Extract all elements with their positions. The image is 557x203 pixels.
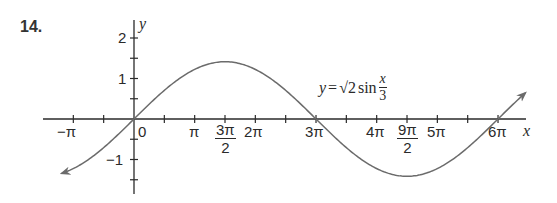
y-tick-label-1: 1 xyxy=(118,71,126,86)
x-tick-label-9pi-2: 9π2 xyxy=(397,122,418,155)
x-tick-label-neg-pi: −π xyxy=(57,124,76,139)
frac-numerator: 9π xyxy=(397,122,418,139)
equation-lhs: y xyxy=(319,79,326,97)
y-tick-label-neg1: −1 xyxy=(106,152,123,167)
x-axis-label: x xyxy=(523,123,530,139)
y-tick-label-2: 2 xyxy=(118,30,126,45)
frac-numerator: 3π xyxy=(215,122,236,139)
x-tick-label-0: 0 xyxy=(138,124,146,139)
equation-annotation: y = √2 sin x3 xyxy=(319,72,387,103)
x-tick-label-5pi: 5π xyxy=(427,124,446,139)
equation-coefficient: √2 xyxy=(339,79,356,97)
equation-equals: = xyxy=(328,79,337,97)
x-tick-label-6pi: 6π xyxy=(488,124,507,139)
x-tick-label-3pi-2: 3π2 xyxy=(215,122,236,155)
frac-denominator: 2 xyxy=(403,139,411,155)
x-tick-label-3pi: 3π xyxy=(305,124,324,139)
x-tick-label-4pi: 4π xyxy=(366,124,385,139)
frac-denominator: 2 xyxy=(221,139,229,155)
equation-frac-num: x xyxy=(379,72,387,88)
plot-canvas xyxy=(0,0,557,203)
y-axis-label: y xyxy=(139,16,146,32)
x-tick-label-pi: π xyxy=(189,124,199,139)
equation-function: sin xyxy=(358,79,377,97)
equation-frac-den: 3 xyxy=(379,88,386,103)
x-tick-label-2pi: 2π xyxy=(244,124,263,139)
